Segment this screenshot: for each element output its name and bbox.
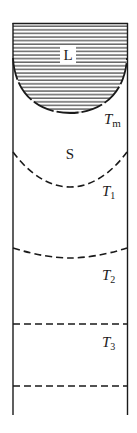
T3-label-sub: 3	[110, 341, 115, 352]
T3-label: T3	[102, 334, 115, 352]
solid-label: S	[66, 146, 74, 162]
Tm-label-sub: m	[112, 117, 121, 129]
Tm-label: Tm	[104, 111, 121, 129]
isotherm-T2	[13, 248, 127, 258]
T2-label: T2	[102, 267, 115, 285]
T1-label: T1	[102, 183, 115, 201]
liquid-label: L	[63, 47, 72, 63]
T2-label-sub: 2	[110, 274, 115, 285]
T1-label-sub: 1	[110, 190, 115, 201]
zone-diagram: L S Tm T1 T2 T3	[0, 0, 137, 433]
liquid-region	[13, 24, 127, 114]
